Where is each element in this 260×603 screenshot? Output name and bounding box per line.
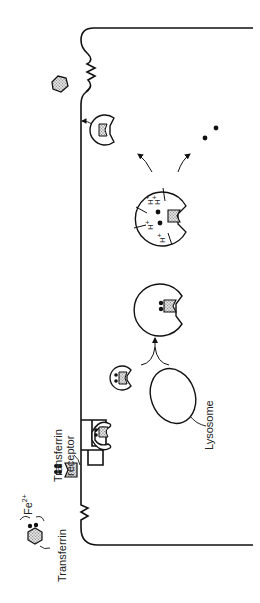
acidified-endosome: H+ H+ H+ H+ xyxy=(134,188,186,246)
released-iron-dot xyxy=(214,126,219,131)
iron-loaded-transferrin xyxy=(20,516,50,548)
transferrin-cycle-diagram: H+ H+ H+ H+ Lysosome Transferrin Fe2+ Tr… xyxy=(0,0,260,603)
arrow-to-recycle xyxy=(138,154,152,172)
endosome xyxy=(134,284,182,336)
fusion-arrow xyxy=(141,338,169,365)
coated-pit-receptor xyxy=(81,420,111,450)
lysosome-label: Lysosome xyxy=(203,400,215,450)
receptor-label-line2: receptor xyxy=(64,435,76,476)
released-apotransferrin xyxy=(52,76,68,92)
released-iron-dot xyxy=(203,136,208,141)
receptor-label-line1: Transferrin xyxy=(52,429,64,482)
arrow-to-iron xyxy=(178,154,190,172)
recycling-vesicle xyxy=(82,115,114,145)
lysosome xyxy=(143,362,203,430)
transferrin-label: Transferrin xyxy=(56,529,68,582)
iron-label: Fe2+ xyxy=(21,494,34,515)
endocytic-vesicle xyxy=(110,366,131,390)
